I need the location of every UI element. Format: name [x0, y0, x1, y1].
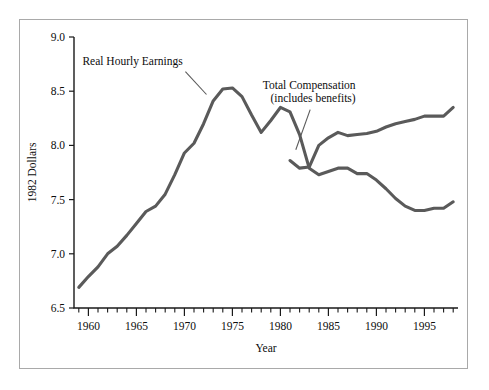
y-tick-label: 8.5 [51, 85, 66, 97]
x-tick-label: 1990 [365, 320, 388, 332]
x-axis-title: Year [255, 342, 276, 354]
x-tick-label: 1980 [269, 320, 292, 332]
x-tick-label: 1960 [77, 320, 100, 332]
figure-canvas: 9.08.58.07.57.06.51960196519701975198019… [0, 0, 489, 390]
axis-spines [74, 37, 458, 308]
x-tick-label: 1975 [221, 320, 244, 332]
line-chart-plot: 9.08.58.07.57.06.51960196519701975198019… [20, 20, 467, 368]
y-tick-label: 7.0 [51, 248, 66, 260]
x-tick-label: 1995 [413, 320, 436, 332]
y-axis-title: 1982 Dollars [26, 142, 38, 202]
y-tick-label: 7.5 [51, 194, 66, 206]
series-annotation: Real Hourly Earnings [82, 55, 183, 68]
series-annotation: (includes benefits) [270, 92, 355, 105]
series-line [290, 107, 453, 168]
y-tick-label: 9.0 [51, 31, 66, 43]
series-line [79, 88, 453, 287]
x-tick-label: 1970 [173, 320, 196, 332]
y-tick-label: 8.0 [51, 139, 66, 151]
earnings-leader-line [185, 72, 206, 95]
x-tick-label: 1985 [317, 320, 340, 332]
x-tick-label: 1965 [125, 320, 148, 332]
series-annotation: Total Compensation [263, 79, 356, 92]
y-tick-label: 6.5 [51, 302, 66, 314]
chart-frame: 9.08.58.07.57.06.51960196519701975198019… [19, 19, 468, 369]
